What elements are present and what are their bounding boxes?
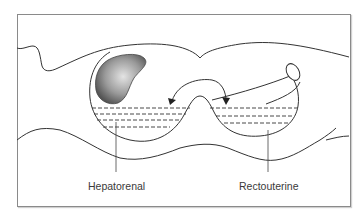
fluid-flow-arrow <box>172 80 226 101</box>
label-rectouterine: Rectouterine <box>239 180 299 192</box>
liver-shape <box>96 54 146 103</box>
upper-wall-outline <box>17 43 349 71</box>
bowel-lumen <box>283 61 302 83</box>
label-hepatorenal: Hepatorenal <box>88 180 145 192</box>
arrowhead-left-icon <box>168 98 176 105</box>
peritoneal-diagram <box>0 0 357 211</box>
arrowhead-right-icon <box>222 97 230 105</box>
fluid-level-right <box>210 108 298 123</box>
fluid-level-left <box>92 108 190 127</box>
lower-wall-outline <box>17 128 349 160</box>
